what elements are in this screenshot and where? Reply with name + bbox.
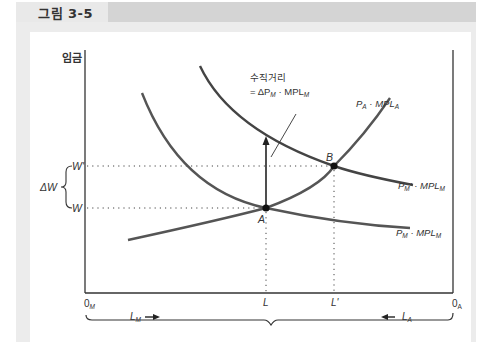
point-a <box>262 204 269 211</box>
annotation-title: 수직거리 <box>250 72 286 83</box>
delta-w-label: ΔW <box>39 181 58 193</box>
point-a-label: A <box>257 213 265 225</box>
tick-l: L <box>263 297 269 308</box>
curve-pm-label: PM · MPLM <box>396 227 442 239</box>
labor-total-brace <box>86 313 453 325</box>
point-b-label: B <box>326 151 333 163</box>
curve-pa-label: PA · MPLA <box>356 98 399 110</box>
curve-pm-prime-label: PM' · MPLM <box>398 180 446 192</box>
y-axis-label: 임금 <box>62 52 82 64</box>
curve-pm-prime-mpl-m <box>200 66 413 185</box>
lm-label: LM <box>130 311 142 323</box>
curve-pm-mpl-m <box>142 93 410 228</box>
tick-w: W <box>72 202 83 214</box>
right-arrow-icon <box>153 314 160 320</box>
delta-w-brace <box>61 166 72 208</box>
annotation-formula: = ΔPM · MPLM <box>250 86 310 98</box>
tick-l-prime: L' <box>331 297 340 308</box>
origin-a: 0A <box>452 298 463 310</box>
origin-m: 0M <box>84 298 96 310</box>
tick-w-prime: W' <box>72 160 85 172</box>
point-b <box>330 162 337 169</box>
annotation-pointer <box>271 114 296 157</box>
la-label: LA <box>402 311 412 323</box>
left-arrow-icon <box>381 314 388 320</box>
